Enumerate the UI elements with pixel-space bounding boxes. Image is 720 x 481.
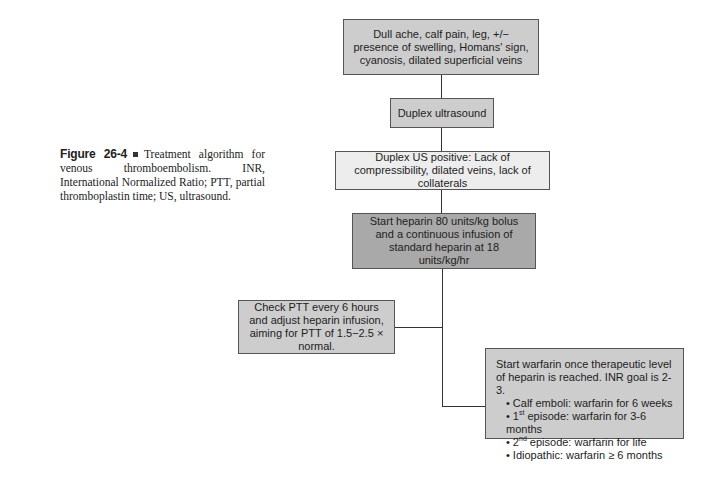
node-duplex-ultrasound-text: Duplex ultrasound (398, 107, 487, 120)
list-item: 1st episode: warfarin for 3-6 months (506, 410, 673, 436)
node-duplex-positive-text: Duplex US positive: Lack of compressibil… (342, 151, 543, 190)
connector-duplex-positive (441, 128, 442, 151)
node-check-ptt-text: Check PTT every 6 hours and adjust hepar… (245, 301, 388, 353)
node-check-ptt: Check PTT every 6 hours and adjust hepar… (238, 300, 395, 354)
node-start-warfarin: Start warfarin once therapeutic level of… (485, 348, 684, 439)
node-start-warfarin-intro: Start warfarin once therapeutic level of… (496, 358, 673, 397)
node-duplex-positive: Duplex US positive: Lack of compressibil… (335, 151, 550, 190)
list-item: 2nd episode: warfarin for life (506, 436, 673, 449)
figure-caption: Figure 26-4Treatment algorithm for venou… (60, 147, 265, 203)
connector-positive-heparin (441, 190, 442, 213)
warfarin-duration-list: Calf emboli: warfarin for 6 weeks 1st ep… (496, 397, 673, 462)
node-symptoms-text: Dull ache, calf pain, leg, +/− presence … (350, 28, 532, 67)
node-symptoms: Dull ache, calf pain, leg, +/− presence … (343, 19, 539, 75)
connector-symptoms-duplex (441, 75, 442, 98)
node-start-heparin: Start heparin 80 units/kg bolus and a co… (352, 213, 536, 269)
caption-separator-square-icon (133, 152, 138, 157)
node-start-heparin-text: Start heparin 80 units/kg bolus and a co… (365, 215, 523, 267)
figure-label: Figure 26-4 (60, 147, 127, 161)
connector-trunk-ptt (394, 327, 443, 328)
connector-trunk-warfarin (442, 406, 485, 407)
connector-heparin-trunk (442, 269, 443, 407)
node-duplex-ultrasound: Duplex ultrasound (390, 98, 494, 128)
list-item: Idiopathic: warfarin ≥ 6 months (506, 449, 673, 462)
list-item: Calf emboli: warfarin for 6 weeks (506, 397, 673, 410)
